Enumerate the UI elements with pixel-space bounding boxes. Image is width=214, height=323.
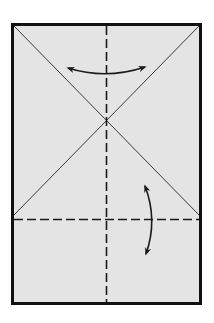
- origami-diagram: [0, 0, 214, 323]
